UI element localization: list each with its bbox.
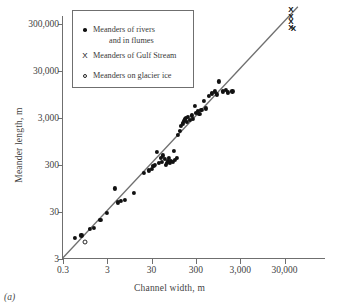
legend-label-continued: and in flumes [109,36,154,45]
x-tick [107,259,108,264]
x-tick-label: 0.3 [57,265,69,275]
x-axis-label: Channel width, m [0,283,339,293]
legend-x-icon: X [79,51,91,60]
figure-caption: (a) [4,292,15,302]
y-tick-label: 300,000 [28,19,59,29]
x-tick-label: 3 [105,265,110,275]
y-tick-label: 30,000 [33,66,59,76]
data-point-x: X [291,25,296,33]
x-tick [63,259,64,264]
figure-container: Meander length, m Channel width, m (a) 3… [0,0,339,307]
x-tick-label: 30 [147,265,157,275]
y-tick-label: 30 [50,207,60,217]
x-tick-label: 30,000 [271,265,297,275]
y-tick-label: 300 [45,160,59,170]
legend-circle-icon [79,71,91,80]
x-tick [196,259,197,264]
y-tick-label: 3 [54,254,59,264]
legend-dot-icon [79,25,91,34]
legend-label: Meanders of Gulf Stream [93,51,176,60]
legend-label: Meanders of rivers [93,25,155,34]
data-point-circle [83,239,88,244]
legend-label: Meanders on glacier ice [93,71,171,80]
y-tick-label: 3,000 [38,113,59,123]
x-tick [240,259,241,264]
x-tick-label: 3,000 [230,265,251,275]
x-tick [152,259,153,264]
x-tick-label: 300 [189,265,203,275]
chart-legend: Meanders of riversand in flumesXMeanders… [72,10,194,88]
y-axis-label: Meander length, m [14,80,24,210]
x-tick [285,259,286,264]
